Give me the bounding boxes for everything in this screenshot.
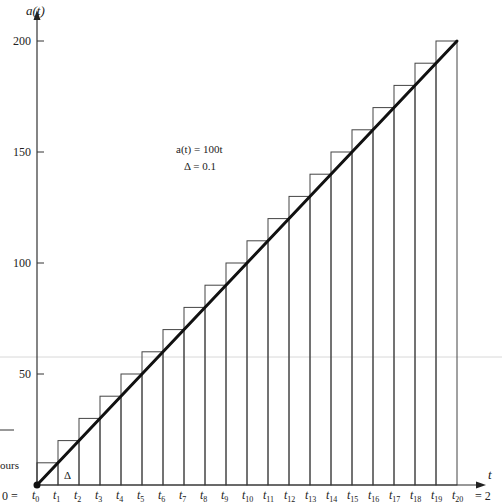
x-tick-label: t15: [347, 489, 358, 503]
y-tick-label: 100: [1, 257, 31, 269]
x-tick-label: t9: [221, 489, 228, 503]
step-rectangle: [373, 108, 394, 485]
x-tick-label: t18: [410, 489, 421, 503]
step-rectangle: [184, 307, 205, 485]
y-tick-label: 150: [1, 146, 31, 158]
x-tick-label: t13: [305, 489, 316, 503]
x-tick-label: t3: [95, 489, 102, 503]
formula-annotation: a(t) = 100t: [176, 144, 223, 155]
y-axis-label: a(t): [26, 4, 45, 17]
step-rectangle: [121, 374, 142, 485]
x-tick-label: t17: [389, 489, 400, 503]
x-tick-label: t5: [137, 489, 144, 503]
x-tick-label: t8: [200, 489, 207, 503]
y-tick-label: 50: [1, 368, 31, 380]
x-tick-label: t20: [452, 489, 463, 503]
delta-marker: Δ: [64, 470, 71, 481]
x-axis-label: t: [488, 468, 492, 481]
x-tick-label: t10: [242, 489, 253, 503]
end-label: = 2: [475, 490, 491, 502]
step-rectangle: [436, 41, 457, 485]
step-rectangle: [352, 130, 373, 485]
x-tick-label: t4: [116, 489, 123, 503]
step-rectangle: [205, 285, 226, 485]
x-tick-label: t2: [74, 489, 81, 503]
x-tick-label: t11: [263, 489, 274, 503]
delta-annotation: Δ = 0.1: [184, 161, 216, 172]
step-rectangle: [268, 219, 289, 485]
x-axis-arrow-icon: [476, 482, 486, 489]
left-edge-fragment: ours: [0, 460, 19, 471]
step-rectangle: [247, 241, 268, 485]
y-axis-ticks: [37, 41, 44, 374]
riemann-staircase-chart: [0, 0, 502, 503]
step-rectangle: [310, 174, 331, 485]
step-rectangle: [394, 85, 415, 485]
origin-label: 0 =: [2, 490, 18, 502]
x-tick-label: t7: [179, 489, 186, 503]
x-tick-label: t12: [284, 489, 295, 503]
step-rectangle: [226, 263, 247, 485]
x-tick-label: t16: [368, 489, 379, 503]
y-tick-label: 200: [1, 35, 31, 47]
step-rectangle: [100, 396, 121, 485]
step-rectangle: [163, 330, 184, 485]
step-rectangle: [415, 63, 436, 485]
x-tick-label: t19: [431, 489, 442, 503]
x-tick-label: t0: [32, 489, 39, 503]
x-tick-label: t1: [53, 489, 60, 503]
step-rectangle: [331, 152, 352, 485]
x-tick-label: t6: [158, 489, 165, 503]
x-tick-label: t14: [326, 489, 337, 503]
step-rectangle: [289, 196, 310, 485]
